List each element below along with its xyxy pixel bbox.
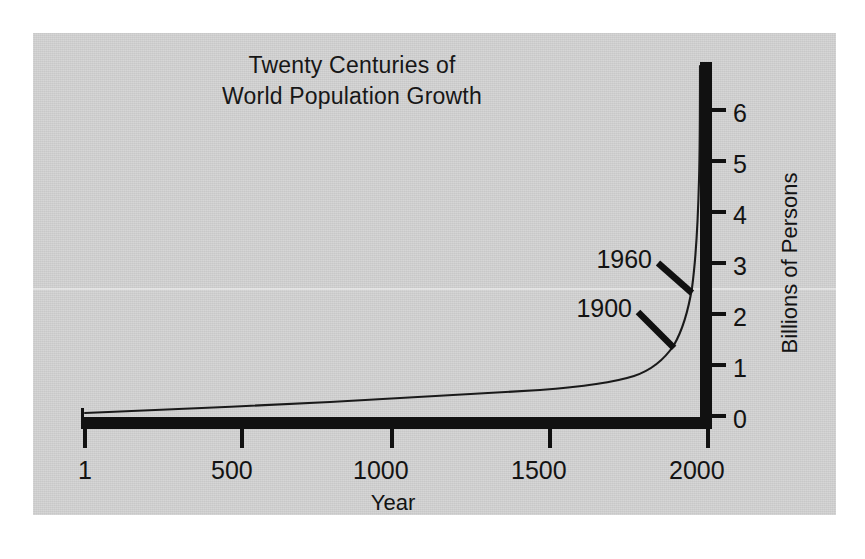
annotation-1960: 1960 xyxy=(596,245,692,293)
chart-title-line-2: World Population Growth xyxy=(222,83,482,109)
x-tick-label-1000: 1000 xyxy=(353,456,409,484)
y-tick-5 xyxy=(712,159,726,163)
y-tick-label-0: 0 xyxy=(733,405,747,433)
annotation-1900-leader-line xyxy=(638,312,674,348)
y-tick-label-6: 6 xyxy=(733,99,747,127)
x-tick-1500 xyxy=(548,429,552,448)
y-tick-label-3: 3 xyxy=(733,252,747,280)
y-tick-0 xyxy=(712,414,726,418)
x-axis-left-stub xyxy=(81,408,84,421)
x-tick-label-1500: 1500 xyxy=(511,456,567,484)
x-tick-1000 xyxy=(390,429,394,448)
x-axis-tick-labels: 1 500 1000 1500 2000 xyxy=(78,456,725,484)
chart-title: Twenty Centuries of World Population Gro… xyxy=(222,52,482,109)
y-axis-spine xyxy=(700,62,712,422)
x-axis-title: Year xyxy=(371,490,415,515)
annotation-1960-label: 1960 xyxy=(596,245,652,273)
annotation-1960-leader-line xyxy=(658,263,692,293)
chart-title-line-1: Twenty Centuries of xyxy=(248,52,455,78)
x-tick-500 xyxy=(240,429,244,448)
y-axis-ticks xyxy=(712,108,726,418)
x-axis-ticks xyxy=(83,429,710,448)
x-tick-2000 xyxy=(706,429,710,448)
y-axis-title: Billions of Persons xyxy=(777,173,802,354)
y-tick-2 xyxy=(712,312,726,316)
y-tick-3 xyxy=(712,261,726,265)
x-tick-label-2000: 2000 xyxy=(669,456,725,484)
y-tick-label-5: 5 xyxy=(733,150,747,178)
x-tick-1 xyxy=(83,429,87,448)
y-tick-1 xyxy=(712,363,726,367)
y-axis-tick-labels: 0 1 2 3 4 5 6 xyxy=(733,99,747,433)
annotation-1900: 1900 xyxy=(576,294,674,348)
y-tick-label-2: 2 xyxy=(733,303,747,331)
y-tick-4 xyxy=(712,210,726,214)
x-tick-label-500: 500 xyxy=(211,456,253,484)
figure-root: Twenty Centuries of World Population Gro… xyxy=(0,0,865,559)
population-curve xyxy=(85,66,700,413)
x-tick-label-1: 1 xyxy=(78,456,92,484)
x-axis-spine xyxy=(81,417,712,429)
y-tick-label-1: 1 xyxy=(733,354,747,382)
y-tick-label-4: 4 xyxy=(733,201,747,229)
annotation-1900-label: 1900 xyxy=(576,294,632,322)
y-tick-6 xyxy=(712,108,726,112)
population-growth-chart: Twenty Centuries of World Population Gro… xyxy=(0,0,865,559)
